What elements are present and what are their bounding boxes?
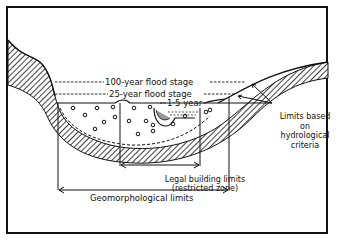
hydro-label-line-1: Limits based bbox=[273, 112, 337, 122]
hydro-label-line-4: criteria bbox=[273, 141, 337, 151]
legal-label-line-1: Legal building limits bbox=[150, 175, 260, 184]
label-hydrological-limits: Limits based on hydrological criteria bbox=[273, 112, 337, 150]
label-100-year-flood-stage: 100-year flood stage bbox=[105, 78, 193, 87]
label-legal-building-limits: Legal building limits (restricted zone) bbox=[150, 175, 260, 193]
hydro-label-line-2: on bbox=[273, 122, 337, 132]
legal-label-line-2: (restricted zone) bbox=[150, 184, 260, 193]
label-1-5-year: 1·5 year bbox=[167, 99, 202, 108]
label-geomorphological-limits: Geomorphological limits bbox=[90, 194, 193, 203]
hydro-label-line-3: hydrological bbox=[273, 131, 337, 141]
